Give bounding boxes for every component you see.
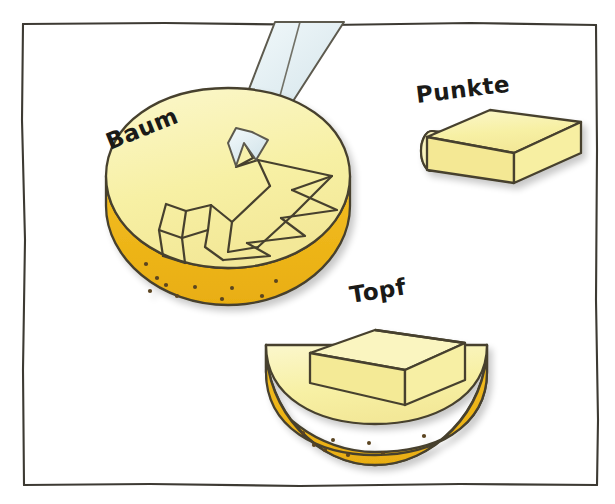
illustration-scene: Baum Punkte Topf: [0, 0, 615, 504]
cheese-illustration-canvas: Baum Punkte Topf: [0, 0, 615, 504]
